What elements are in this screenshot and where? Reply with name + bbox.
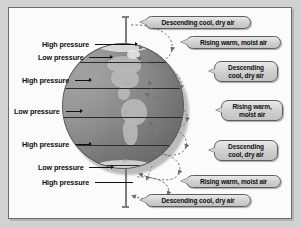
pressure-leader-5 [75, 144, 89, 145]
pressure-label-6: Low pressure [38, 163, 84, 172]
pressure-label-5: High pressure [22, 140, 69, 149]
callout-text: Rising warm, moist air [200, 39, 267, 46]
latitude-line-60n [62, 62, 184, 63]
callout-descending-2: Descending cool, dry air [214, 61, 278, 82]
latitude-label-60n: 60° [123, 57, 128, 60]
callout-tail-icon [181, 178, 188, 184]
axis-cap-south [122, 206, 129, 208]
latitude-line-equator [62, 117, 184, 118]
pressure-leader-6 [89, 167, 111, 168]
callout-text-line1: Rising warm, [232, 103, 271, 111]
axis-cap-north [122, 16, 129, 18]
pressure-leader-7 [95, 182, 133, 183]
latitude-line-30n [62, 88, 184, 89]
callout-text-line1: Descending [228, 143, 264, 151]
pressure-label-1: High pressure [42, 40, 89, 49]
callout-rising-1: Rising warm, moist air [186, 36, 281, 49]
callout-tail-icon [181, 39, 188, 45]
callout-tail-icon [140, 19, 147, 25]
callout-descending-3: Descending cool, dry air [214, 140, 278, 161]
callout-rising-3: Rising warm, moist air [186, 175, 281, 188]
callout-text-line2: cool, dry air [228, 151, 263, 159]
pressure-leader-4 [66, 111, 80, 112]
latitude-label-30n: 30° [124, 83, 129, 86]
callout-rising-2: Rising warm, moist air [221, 100, 283, 121]
pressure-label-7: High pressure [42, 178, 89, 187]
pressure-label-2: Low pressure [38, 53, 84, 62]
callout-text-line2: moist air [239, 111, 265, 119]
callout-text-line2: cool, dry air [228, 72, 263, 80]
figure-canvas: 60° 30° 0° 30° 60° [0, 0, 301, 228]
pressure-label-3: High pressure [22, 76, 69, 85]
callout-tail-icon [216, 107, 223, 113]
callout-text: Descending cool, dry air [162, 19, 235, 26]
latitude-label-60s: 60° [123, 160, 128, 163]
callout-descending-1: Descending cool, dry air [145, 16, 251, 29]
latitude-line-30s [62, 145, 184, 146]
callout-text-line1: Descending [228, 64, 264, 72]
pressure-leader-2 [89, 57, 110, 58]
pressure-label-4: Low pressure [14, 107, 60, 116]
callout-text: Descending cool, dry air [162, 197, 235, 204]
callout-tail-icon [140, 197, 147, 203]
latitude-label-30s: 30° [124, 140, 129, 143]
callout-tail-icon [209, 68, 216, 74]
pressure-leader-1 [95, 44, 135, 45]
callout-text: Rising warm, moist air [200, 178, 267, 185]
latitude-label-equator: 0° [125, 112, 128, 115]
pressure-leader-3 [75, 80, 89, 81]
callout-descending-4: Descending cool, dry air [145, 194, 251, 207]
callout-tail-icon [209, 147, 216, 153]
